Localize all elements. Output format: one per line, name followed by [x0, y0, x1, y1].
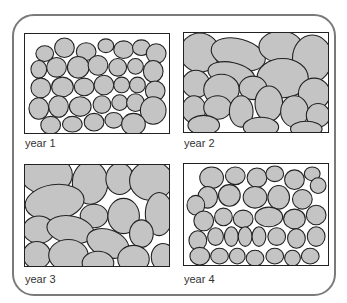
cells-illustration-year-3 [25, 165, 169, 266]
cells-illustration-year-2 [184, 33, 328, 132]
panel-year-3 [24, 164, 170, 267]
cells-illustration-year-1 [25, 34, 169, 133]
label-year-4: year 4 [184, 273, 215, 285]
label-year-3: year 3 [25, 273, 56, 285]
panel-year-2 [183, 32, 329, 133]
panel-year-4 [183, 163, 329, 266]
panel-year-1 [24, 33, 170, 134]
cells-illustration-year-4 [184, 164, 328, 265]
label-year-2: year 2 [184, 137, 215, 149]
label-year-1: year 1 [25, 137, 56, 149]
